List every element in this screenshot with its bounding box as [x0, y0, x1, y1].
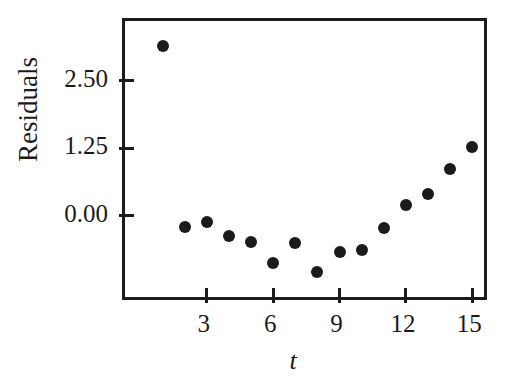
residuals-scatter-figure: Residuals t 0.001.252.50 3691215	[0, 0, 511, 388]
x-axis-tick	[272, 288, 275, 303]
data-point	[311, 266, 323, 278]
x-axis-title: t	[263, 348, 323, 374]
data-point	[334, 246, 346, 258]
x-axis-tick	[205, 288, 208, 303]
data-point	[157, 40, 169, 52]
x-axis-tick-label: 15	[439, 311, 499, 336]
data-point	[201, 216, 213, 228]
y-axis-tick	[119, 147, 134, 150]
x-axis-tick	[471, 288, 474, 303]
data-point	[223, 230, 235, 242]
y-axis-tick-label: 2.50	[16, 66, 108, 91]
data-point	[179, 221, 191, 233]
x-axis-tick-label: 6	[240, 311, 300, 336]
plot-frame	[122, 18, 487, 300]
y-axis-tick-label: 0.00	[16, 201, 108, 226]
data-point	[356, 244, 368, 256]
plot-area	[125, 21, 484, 297]
data-point	[267, 257, 279, 269]
y-axis-tick	[119, 79, 134, 82]
data-point	[378, 222, 390, 234]
x-axis-tick-label: 3	[174, 311, 234, 336]
data-point	[400, 199, 412, 211]
x-axis-tick	[404, 288, 407, 303]
x-axis-tick-label: 9	[307, 311, 367, 336]
x-axis-tick-label: 12	[373, 311, 433, 336]
y-axis-title: Residuals	[15, 20, 42, 200]
y-axis-tick	[119, 214, 134, 217]
data-point	[289, 237, 301, 249]
x-axis-tick	[338, 288, 341, 303]
data-point	[422, 188, 434, 200]
y-axis-tick-label: 1.25	[16, 133, 108, 158]
data-point	[466, 141, 478, 153]
data-point	[444, 163, 456, 175]
data-point	[245, 236, 257, 248]
